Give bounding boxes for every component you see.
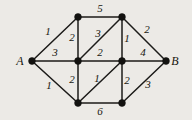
edge-weight-label: 6 bbox=[97, 105, 103, 117]
edge-weight-label: 3 bbox=[51, 46, 58, 58]
node-label-a: A bbox=[15, 54, 24, 68]
edge-weight-label: 3 bbox=[94, 27, 101, 39]
edge-weight-labels-layer: 131523122421263 bbox=[45, 2, 151, 117]
edge-weight-label: 2 bbox=[69, 73, 75, 85]
edge-weight-label: 2 bbox=[124, 74, 130, 86]
graph-node bbox=[163, 58, 170, 65]
edge-weight-label: 2 bbox=[97, 46, 103, 58]
graph-canvas: 131523122421263 AB bbox=[0, 0, 192, 120]
edge-weight-label: 1 bbox=[46, 79, 52, 91]
node-label-b: B bbox=[171, 54, 179, 68]
graph-node bbox=[75, 14, 82, 21]
graph-edge bbox=[78, 61, 122, 103]
edge-weight-label: 1 bbox=[94, 72, 100, 84]
edge-weight-label: 5 bbox=[97, 2, 103, 14]
graph-node bbox=[29, 58, 36, 65]
edge-weight-label: 1 bbox=[124, 32, 130, 44]
edge-weight-label: 2 bbox=[69, 31, 75, 43]
graph-node bbox=[119, 58, 126, 65]
graph-node bbox=[119, 100, 126, 107]
graph-figure: 131523122421263 AB bbox=[0, 0, 192, 120]
edge-weight-label: 1 bbox=[45, 25, 51, 37]
graph-node bbox=[119, 14, 126, 21]
edge-weight-label: 3 bbox=[144, 78, 151, 90]
graph-node bbox=[75, 58, 82, 65]
edge-weight-label: 2 bbox=[144, 23, 150, 35]
edge-weight-label: 4 bbox=[140, 46, 146, 58]
graph-node bbox=[75, 100, 82, 107]
